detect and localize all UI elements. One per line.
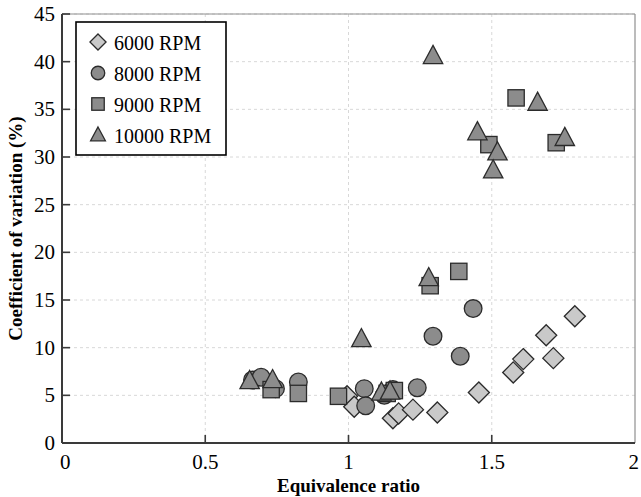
y-tick-label: 30 [34, 145, 55, 169]
data-point-circle [408, 379, 426, 397]
x-tick-label: 0 [60, 450, 71, 474]
scatter-plot-figure: 05101520253035404500.511.52 6000 RPM8000… [0, 0, 641, 497]
data-point-square [330, 388, 346, 404]
data-point-circle [451, 347, 469, 365]
x-tick-label: 1 [343, 450, 354, 474]
data-point-triangle [423, 45, 442, 63]
y-tick-label: 35 [34, 97, 55, 121]
legend-marker-circle [91, 66, 105, 80]
y-tick-label: 40 [34, 50, 55, 74]
data-point-triangle [528, 92, 547, 110]
y-tick-label: 15 [34, 288, 55, 312]
data-point-circle [355, 380, 373, 398]
x-tick-label: 0.5 [192, 450, 218, 474]
x-tick-label: 2 [629, 450, 640, 474]
data-point-square [451, 263, 467, 279]
plot-canvas: 05101520253035404500.511.52 6000 RPM8000… [0, 0, 641, 497]
data-point-circle [424, 327, 442, 345]
legend-marker-square [92, 98, 104, 110]
legend: 6000 RPM8000 RPM9000 RPM10000 RPM [76, 22, 226, 155]
data-point-triangle [352, 329, 371, 347]
data-points-layer [240, 45, 585, 428]
data-point-diamond [468, 382, 489, 403]
legend-label: 8000 RPM [114, 63, 201, 85]
legend-label: 9000 RPM [114, 94, 201, 116]
x-axis-title: Equivalence ratio [277, 475, 420, 496]
data-point-triangle [468, 122, 487, 140]
data-point-triangle [483, 160, 502, 178]
legend-label: 6000 RPM [114, 32, 201, 54]
y-tick-label: 0 [45, 431, 56, 455]
data-point-diamond [427, 402, 448, 423]
data-point-diamond [536, 325, 557, 346]
y-tick-label: 45 [34, 2, 55, 26]
x-tick-label: 1.5 [479, 450, 505, 474]
y-tick-label: 5 [45, 383, 56, 407]
y-tick-label: 10 [34, 336, 55, 360]
y-tick-label: 25 [34, 193, 55, 217]
data-point-diamond [564, 306, 585, 327]
data-point-square [290, 385, 306, 401]
legend-label: 10000 RPM [114, 125, 211, 147]
data-point-triangle [419, 268, 438, 286]
data-point-square [508, 90, 524, 106]
data-point-diamond [543, 348, 564, 369]
y-axis-title: Coefficient of variation (%) [5, 116, 27, 340]
y-tick-label: 20 [34, 240, 55, 264]
data-point-circle [464, 300, 482, 318]
